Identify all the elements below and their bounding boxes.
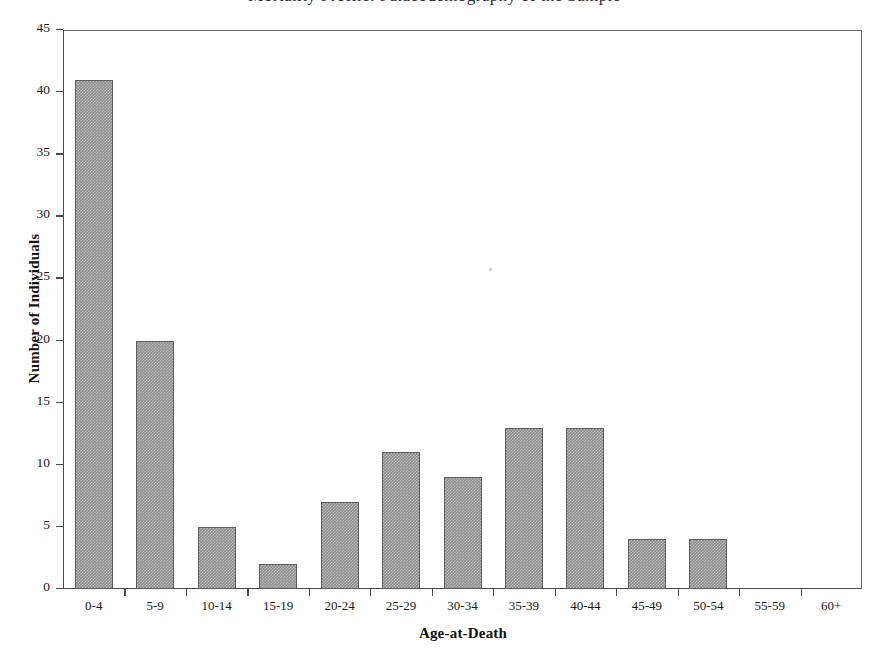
y-tick-label: 30 xyxy=(0,206,50,222)
y-tick-mark xyxy=(56,588,63,589)
y-tick-label: 20 xyxy=(0,331,50,347)
x-tick-label: 50-54 xyxy=(678,598,739,614)
y-tick-label: 40 xyxy=(0,82,50,98)
y-tick-mark xyxy=(56,526,63,527)
bar xyxy=(259,564,297,589)
x-tick-mark xyxy=(309,589,310,596)
x-tick-mark xyxy=(247,589,248,596)
y-tick-mark xyxy=(56,402,63,403)
y-tick-mark xyxy=(56,29,63,30)
y-tick-mark xyxy=(56,464,63,465)
x-tick-label: 20-24 xyxy=(309,598,370,614)
y-tick-label: 5 xyxy=(0,517,50,533)
bar xyxy=(321,502,359,589)
y-tick-mark xyxy=(56,153,63,154)
bar xyxy=(689,539,727,589)
x-tick-label: 30-34 xyxy=(432,598,493,614)
bar xyxy=(136,341,174,589)
x-tick-label: 40-44 xyxy=(555,598,616,614)
x-tick-label: 35-39 xyxy=(493,598,554,614)
x-tick-mark xyxy=(678,589,679,596)
scan-artifact-speck xyxy=(489,268,492,271)
y-tick-label: 25 xyxy=(0,268,50,284)
y-tick-mark xyxy=(56,215,63,216)
x-tick-mark xyxy=(739,589,740,596)
x-tick-label: 55-59 xyxy=(739,598,800,614)
bar xyxy=(444,477,482,589)
x-tick-label: 0-4 xyxy=(63,598,124,614)
x-tick-label: 25-29 xyxy=(370,598,431,614)
y-tick-label: 15 xyxy=(0,393,50,409)
chart-figure: Mortality Profile: Palaeodemography of t… xyxy=(0,0,869,654)
bar xyxy=(505,428,543,589)
x-tick-label: 10-14 xyxy=(186,598,247,614)
x-tick-mark xyxy=(370,589,371,596)
y-tick-mark xyxy=(56,340,63,341)
x-tick-mark xyxy=(801,589,802,596)
x-tick-mark xyxy=(555,589,556,596)
figure-title-cropped: Mortality Profile: Palaeodemography of t… xyxy=(0,0,869,6)
x-tick-mark xyxy=(124,589,125,596)
x-tick-label: 60+ xyxy=(801,598,862,614)
bar xyxy=(566,428,604,589)
y-tick-label: 0 xyxy=(0,579,50,595)
x-tick-label: 5-9 xyxy=(124,598,185,614)
x-tick-mark xyxy=(616,589,617,596)
x-tick-mark xyxy=(186,589,187,596)
y-tick-label: 10 xyxy=(0,455,50,471)
x-tick-mark xyxy=(432,589,433,596)
y-tick-label: 35 xyxy=(0,144,50,160)
y-tick-mark xyxy=(56,277,63,278)
x-axis-title: Age-at-Death xyxy=(63,625,863,642)
x-tick-label: 45-49 xyxy=(616,598,677,614)
bar xyxy=(382,452,420,589)
bar xyxy=(198,527,236,589)
x-tick-label: 15-19 xyxy=(247,598,308,614)
bar xyxy=(628,539,666,589)
y-tick-label: 45 xyxy=(0,20,50,36)
bar xyxy=(75,80,113,589)
x-tick-mark xyxy=(493,589,494,596)
y-tick-mark xyxy=(56,91,63,92)
